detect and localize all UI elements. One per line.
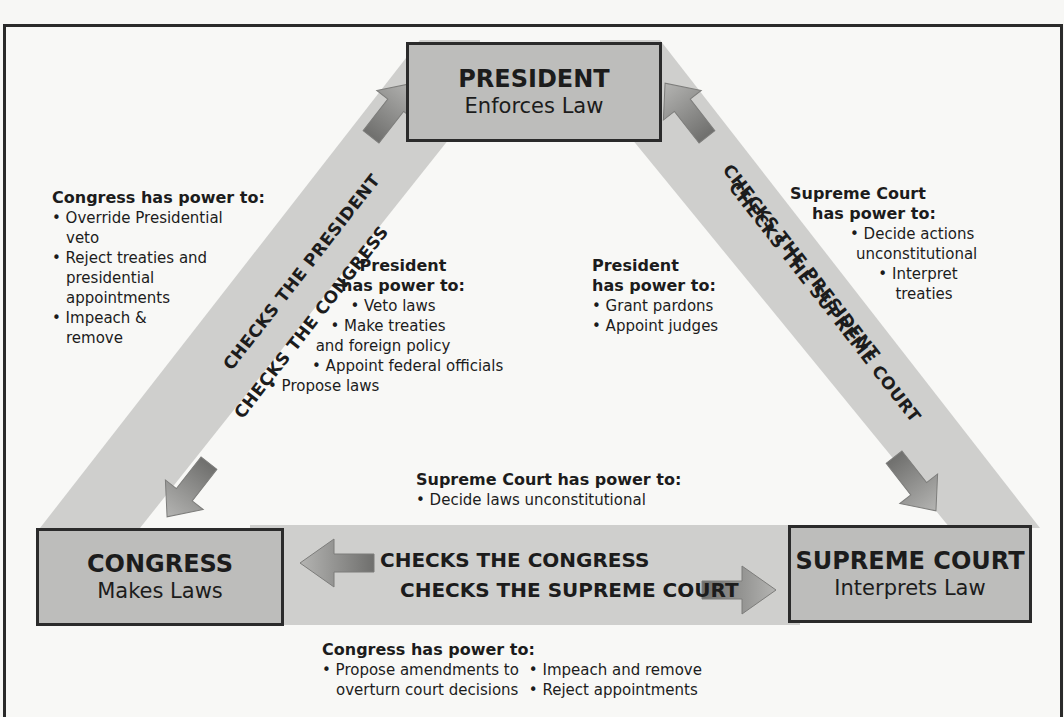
note-item: • Grant pardons	[592, 296, 718, 316]
note-heading: has power to:	[790, 204, 970, 224]
president-title: PRESIDENT	[458, 65, 609, 93]
president-box: PRESIDENT Enforces Law	[406, 42, 662, 142]
note-court-checks-president: Supreme Court has power to: • Decide act…	[790, 184, 970, 304]
note-item: • Override Presidential	[52, 208, 265, 228]
note-court-checks-congress: Supreme Court has power to: • Decide law…	[416, 470, 681, 510]
note-item: overturn court decisions	[322, 680, 519, 700]
note-heading: Supreme Court has power to:	[416, 470, 681, 490]
note-congress-checks-court: Congress has power to: • Propose amendme…	[322, 640, 702, 700]
note-item: treaties	[790, 284, 970, 304]
note-item: • Propose amendments to	[322, 660, 519, 680]
note-item: veto	[52, 228, 265, 248]
president-role: Enforces Law	[465, 93, 604, 119]
note-item: • Interpret	[790, 264, 970, 284]
note-item: remove	[52, 328, 265, 348]
note-president-checks-court: President has power to: • Grant pardons …	[592, 256, 718, 336]
note-president-checks-congress: President has power to: • Veto laws • Ma…	[268, 256, 498, 396]
note-item: • Propose laws	[268, 376, 498, 396]
note-item: • Decide actions	[790, 224, 970, 244]
note-heading: Congress has power to:	[52, 188, 265, 208]
supreme-court-role: Interprets Law	[834, 575, 985, 601]
note-heading: Congress has power to:	[322, 640, 702, 660]
note-item: and foreign policy	[268, 336, 498, 356]
note-item: unconstitutional	[790, 244, 970, 264]
congress-title: CONGRESS	[87, 550, 233, 578]
note-item: • Impeach &	[52, 308, 265, 328]
note-heading: President	[592, 256, 718, 276]
note-item: • Reject treaties and	[52, 248, 265, 268]
congress-box: CONGRESS Makes Laws	[36, 528, 284, 626]
bottom-band-label-top: CHECKS THE CONGRESS	[380, 548, 649, 572]
bottom-band-label-bottom: CHECKS THE SUPREME COURT	[400, 578, 739, 602]
congress-role: Makes Laws	[97, 578, 223, 604]
note-heading: has power to:	[592, 276, 718, 296]
note-heading: has power to:	[268, 276, 498, 296]
supreme-court-title: SUPREME COURT	[795, 547, 1024, 575]
note-item: • Appoint federal officials	[268, 356, 498, 376]
note-heading: Supreme Court	[790, 184, 970, 204]
note-item: presidential	[52, 268, 265, 288]
note-item: • Veto laws	[268, 296, 498, 316]
note-congress-checks-president: Congress has power to: • Override Presid…	[52, 188, 265, 348]
note-item: appointments	[52, 288, 265, 308]
note-item: • Make treaties	[268, 316, 498, 336]
note-item: • Decide laws unconstitutional	[416, 490, 681, 510]
note-item: • Reject appointments	[529, 680, 702, 700]
note-heading: President	[268, 256, 498, 276]
note-item: • Impeach and remove	[529, 660, 702, 680]
note-item: • Appoint judges	[592, 316, 718, 336]
supreme-court-box: SUPREME COURT Interprets Law	[788, 525, 1032, 623]
